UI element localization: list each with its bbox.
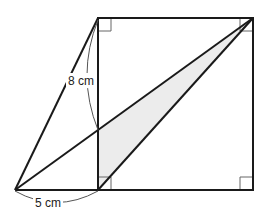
right-angle-mark-bottom-right: [240, 177, 253, 190]
geometry-diagram: 8 cm 5 cm: [0, 0, 269, 217]
diagram-svg: 8 cm 5 cm: [0, 0, 269, 217]
edge-apex-to-top-left: [15, 18, 98, 190]
base-label: 5 cm: [35, 196, 61, 210]
right-angle-mark-top-left: [98, 18, 111, 31]
height-label: 8 cm: [68, 74, 94, 88]
edge-apex-to-top-right: [15, 18, 253, 190]
diagonal-bottom-left-to-top-right: [98, 18, 253, 190]
